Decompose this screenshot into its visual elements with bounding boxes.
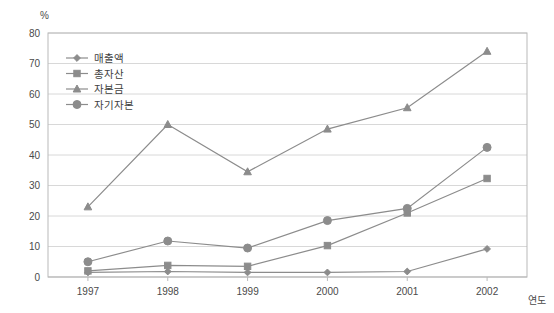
x-axis-tick-label: 2001	[396, 286, 419, 297]
line-chart: % 연도 01020304050607080199719981999200020…	[0, 0, 554, 313]
series-line	[88, 51, 487, 207]
y-axis-tick-label: 30	[29, 180, 41, 191]
x-axis-tick-label: 1997	[77, 286, 100, 297]
data-point-marker	[483, 143, 491, 151]
legend-label: 자본금	[94, 83, 124, 95]
y-axis-tick-label: 10	[29, 241, 41, 252]
data-point-marker	[85, 268, 91, 274]
data-point-marker	[164, 268, 171, 275]
x-axis-tick-label: 1998	[157, 286, 180, 297]
y-axis-tick-label: 50	[29, 119, 41, 130]
data-point-marker	[84, 258, 92, 266]
y-axis-tick-label: 0	[34, 272, 40, 283]
series-line	[88, 178, 487, 270]
x-axis-tick-label: 2000	[316, 286, 339, 297]
y-axis-tick-label: 70	[29, 58, 41, 69]
data-point-marker	[244, 168, 252, 175]
data-point-marker	[404, 268, 411, 275]
y-axis-tick-label: 80	[29, 28, 41, 39]
legend-label: 총자산	[94, 68, 124, 80]
data-point-marker	[165, 262, 171, 268]
y-axis-tick-label: 20	[29, 211, 41, 222]
data-point-marker	[403, 104, 411, 111]
x-axis-tick-label: 2002	[476, 286, 499, 297]
data-point-marker	[73, 101, 81, 109]
data-point-marker	[74, 70, 80, 76]
data-point-marker	[244, 269, 251, 276]
data-point-marker	[484, 175, 490, 181]
data-point-marker	[244, 244, 252, 252]
plot-area: 0102030405060708019971998199920002001200…	[0, 0, 554, 313]
y-axis-tick-label: 60	[29, 89, 41, 100]
y-axis-tick-label: 40	[29, 150, 41, 161]
series-line	[88, 249, 487, 272]
data-point-marker	[323, 217, 331, 225]
x-axis-tick-label: 1999	[236, 286, 259, 297]
data-point-marker	[244, 263, 250, 269]
data-point-marker	[483, 47, 491, 54]
data-point-marker	[74, 55, 81, 62]
legend-label: 매출액	[94, 52, 124, 64]
data-point-marker	[403, 204, 411, 212]
data-point-marker	[164, 237, 172, 245]
legend-label: 자기자본	[94, 99, 134, 111]
data-point-marker	[324, 269, 331, 276]
data-point-marker	[324, 242, 330, 248]
